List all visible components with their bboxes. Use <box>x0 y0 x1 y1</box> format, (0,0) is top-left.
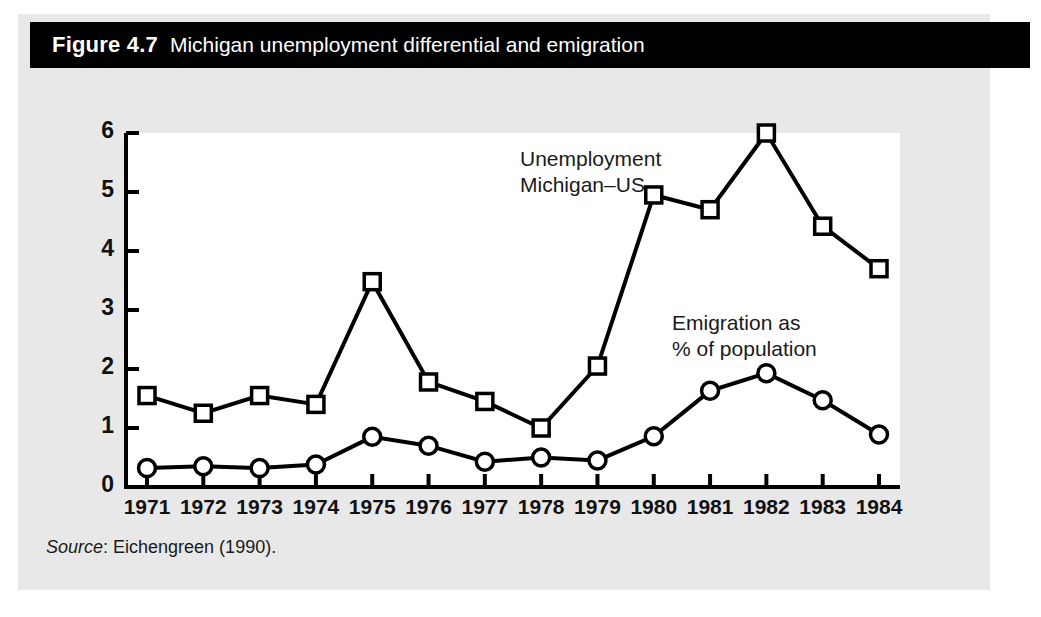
data-point-circle <box>307 456 324 473</box>
series-label-emigration: Emigration as % of population <box>672 310 817 363</box>
data-point-circle <box>814 392 831 409</box>
chart-series <box>139 125 888 477</box>
data-point-circle <box>533 449 550 466</box>
data-point-circle <box>871 426 888 443</box>
data-point-square <box>195 405 211 421</box>
data-point-circle <box>702 382 719 399</box>
y-tick-label: 0 <box>74 471 114 498</box>
y-tick-label: 4 <box>74 235 114 262</box>
data-point-circle <box>420 437 437 454</box>
data-point-circle <box>195 458 212 475</box>
source-note: Source: Eichengreen (1990). <box>46 537 276 558</box>
data-point-circle <box>758 365 775 382</box>
data-point-square <box>421 374 437 390</box>
chart-canvas <box>0 0 1041 617</box>
y-tick-label: 1 <box>74 412 114 439</box>
data-point-square <box>477 393 493 409</box>
data-point-square <box>758 125 774 141</box>
data-point-square <box>702 202 718 218</box>
data-point-square <box>308 396 324 412</box>
y-tick-label: 2 <box>74 353 114 380</box>
source-citation: : Eichengreen (1990). <box>103 537 276 557</box>
data-point-circle <box>476 453 493 470</box>
x-tick-label: 1984 <box>844 495 914 519</box>
data-point-square <box>871 261 887 277</box>
data-point-square <box>364 274 380 290</box>
source-label: Source <box>46 537 103 557</box>
data-point-circle <box>364 428 381 445</box>
data-point-square <box>252 388 268 404</box>
data-point-circle <box>139 460 156 477</box>
data-point-square <box>533 420 549 436</box>
data-point-circle <box>251 460 268 477</box>
data-point-square <box>815 218 831 234</box>
y-tick-label: 3 <box>74 294 114 321</box>
y-tick-label: 5 <box>74 176 114 203</box>
data-point-circle <box>645 428 662 445</box>
series-line <box>147 133 879 428</box>
data-point-circle <box>589 452 606 469</box>
series-label-unemployment: Unemployment Michigan–US <box>520 146 661 199</box>
y-tick-label: 6 <box>74 117 114 144</box>
data-point-square <box>589 358 605 374</box>
data-point-square <box>139 388 155 404</box>
